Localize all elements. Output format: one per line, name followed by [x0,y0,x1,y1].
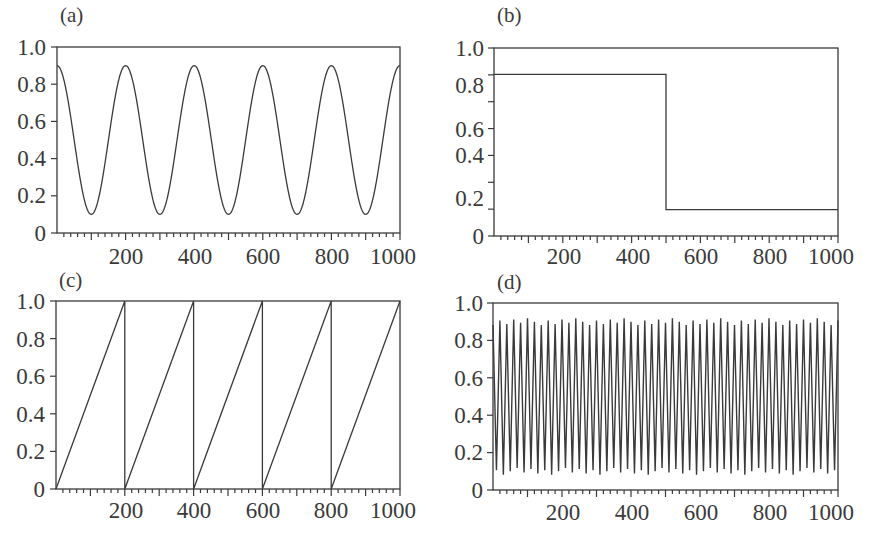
panel-d-ytick-0: 0 [472,478,484,503]
panel-b-ytick-0: 0 [473,224,485,249]
panel-a-xtick-1000: 1000 [370,244,416,269]
panel-b-xtick-400: 400 [616,244,651,269]
panel-b-ytick-0.2: 0.2 [455,186,484,211]
panel-a-ytick-0.4: 0.4 [17,146,46,171]
panel-b: (b) 1.0 0.8 0.6 0.4 0.2 0 200 400 600 80… [455,3,854,269]
panel-c-sawtooth-curve [56,301,400,489]
panel-d-xtick-800: 800 [753,500,788,525]
panel-c-ytick-0.8: 0.8 [16,327,45,352]
panel-d-xtick-400: 400 [615,500,650,525]
panel-b-ytick-0.6: 0.6 [455,117,484,142]
panel-a-ytick-1.0: 1.0 [17,35,46,60]
panel-d-xtick-600: 600 [684,500,719,525]
panel-d-xtick-200: 200 [546,500,581,525]
panel-a-ytick-0: 0 [35,221,47,246]
panel-d-label: (d) [497,270,522,294]
panel-b-xtick-800: 800 [753,244,788,269]
panel-d-ytick-0.4: 0.4 [454,403,483,428]
panel-c-ytick-0.6: 0.6 [16,364,45,389]
panel-c-xtick-400: 400 [177,498,212,523]
panel-b-ytick-0.8: 0.8 [455,73,484,98]
panel-c-xtick-800: 800 [314,498,349,523]
panel-a-ytick-0.6: 0.6 [17,109,46,134]
panel-c-ytick-0.2: 0.2 [16,439,45,464]
panel-a-ytick-0.8: 0.8 [17,72,46,97]
panel-c: (c) 1.0 0.8 0.6 0.4 0.2 0 200 400 600 80… [16,268,416,523]
panel-a-xtick-400: 400 [178,244,213,269]
panel-c-ytick-0: 0 [34,477,46,502]
panel-b-xtick-1000: 1000 [808,244,854,269]
panel-a-cosine-curve [57,66,400,215]
panel-a-xtick-600: 600 [246,244,281,269]
panel-a-xtick-800: 800 [315,244,350,269]
panel-b-step-curve [494,74,838,209]
panel-a-xtick-200: 200 [109,244,144,269]
panel-b-ytick-1.0: 1.0 [455,36,484,61]
panel-c-xtick-200: 200 [109,498,144,523]
panel-a-ytick-0.2: 0.2 [17,183,46,208]
panel-d-ytick-0.2: 0.2 [454,440,483,465]
panel-d-ytick-1.0: 1.0 [454,291,483,316]
panel-d-xtick-1000: 1000 [808,500,854,525]
panel-d: (d) 1.0 0.8 0.6 0.4 0.2 0 200 400 600 80… [454,270,854,525]
panel-b-label: (b) [497,3,522,27]
figure: (a) 1.0 0.8 0.6 0.4 0.2 0 200 400 600 80… [0,0,871,541]
panel-c-label: (c) [59,268,82,292]
panel-b-ytick-0.4: 0.4 [455,143,484,168]
panel-c-xtick-600: 600 [246,498,281,523]
panel-b-xtick-600: 600 [684,244,719,269]
panel-c-xtick-1000: 1000 [370,498,416,523]
panel-a-label: (a) [60,3,83,27]
panel-d-oscillation-curve [493,318,838,474]
panel-d-ytick-0.6: 0.6 [454,366,483,391]
panel-c-ytick-1.0: 1.0 [16,289,45,314]
panel-d-ytick-0.8: 0.8 [454,328,483,353]
panel-c-ytick-0.4: 0.4 [16,402,45,427]
panel-b-xtick-200: 200 [547,244,582,269]
panel-a: (a) 1.0 0.8 0.6 0.4 0.2 0 200 400 600 80… [17,3,416,269]
